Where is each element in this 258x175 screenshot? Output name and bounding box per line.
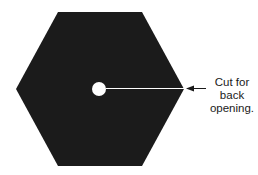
callout-label: Cut for back opening. (206, 76, 258, 115)
hexagon-diagram: Cut for back opening. (0, 0, 258, 175)
callout-label-line-2: back (206, 89, 258, 102)
callout-arrowhead-icon (186, 86, 194, 92)
callout-label-line-3: opening. (206, 102, 258, 115)
callout-label-line-1: Cut for (206, 76, 258, 89)
center-hole (92, 82, 106, 96)
